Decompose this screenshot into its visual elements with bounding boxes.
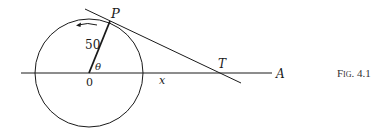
label-radius: 50 [85,38,100,52]
label-t: T [218,57,227,71]
label-x: x [159,74,166,87]
diagram-canvas: P 50 θ 0 x T A Fig. 4.1 [0,0,391,134]
label-origin: 0 [86,76,93,89]
arrowhead-icon [76,23,81,28]
label-theta: θ [95,61,101,72]
figure-caption: Fig. 4.1 [337,67,371,79]
label-p: P [110,6,120,21]
figure-4-1: P 50 θ 0 x T A Fig. 4.1 [0,0,391,134]
tangent-line [85,9,241,83]
label-a: A [275,67,285,81]
